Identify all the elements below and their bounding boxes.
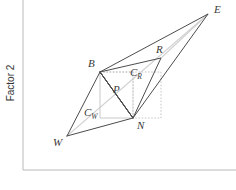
point-label-w: W [53, 137, 62, 148]
point-label-p: P [113, 84, 120, 95]
cw-subscript: W [91, 112, 97, 121]
plot-canvas [0, 0, 236, 190]
cr-subscript: R [137, 72, 142, 81]
edge-b-p [100, 72, 133, 118]
factor-plot-figure: Factor 2 E R B N W P CR CW [0, 0, 236, 190]
point-label-n: N [137, 120, 144, 131]
point-label-b: B [88, 58, 95, 69]
y-axis-title: Factor 2 [6, 55, 16, 111]
point-label-r: R [156, 44, 163, 55]
point-label-cw: CW [84, 107, 98, 121]
point-label-cr: CR [130, 67, 142, 81]
point-label-e: E [214, 4, 221, 15]
